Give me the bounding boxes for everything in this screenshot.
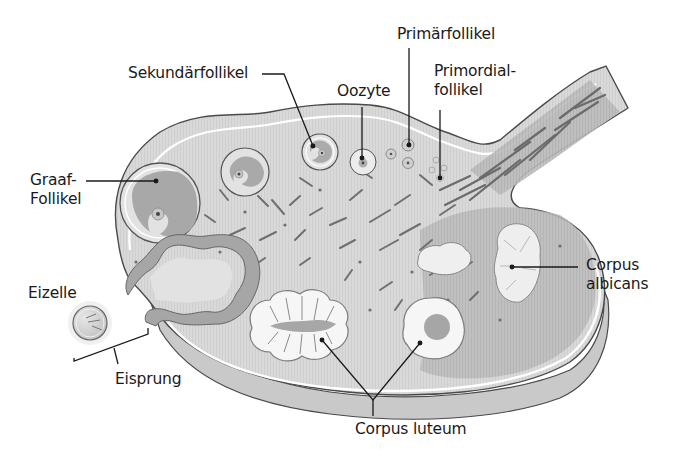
label-primaerfollikel: Primärfollikel: [397, 25, 495, 44]
ovary-diagram: Sekundärfollikel Primärfollikel Oozyte P…: [0, 0, 676, 462]
ovary-illustration: [0, 0, 676, 462]
label-graaf-follikel: Graaf- Follikel: [30, 171, 81, 209]
label-graaf-line1: Graaf-: [30, 171, 81, 190]
label-corpus-albicans: Corpus albicans: [586, 256, 648, 294]
label-corpus-albicans-line2: albicans: [586, 275, 648, 294]
corpus-luteum-round: [403, 298, 465, 359]
corpus-luteum-large: [250, 290, 348, 361]
secondary-follicle-large: [221, 148, 269, 196]
secondary-follicle: [302, 134, 338, 170]
label-primordialfollikel-line2: follikel: [434, 81, 516, 100]
graaf-follicle: [120, 163, 200, 243]
label-corpus-luteum: Corpus luteum: [355, 420, 466, 439]
label-corpus-albicans-line1: Corpus: [586, 256, 648, 275]
label-primordialfollikel-line1: Primordial-: [434, 62, 516, 81]
leader-eisprung: [114, 348, 118, 364]
label-graaf-line2: Follikel: [30, 190, 81, 209]
label-oozyte: Oozyte: [337, 82, 390, 101]
label-sekundaerfollikel: Sekundärfollikel: [128, 64, 248, 83]
egg-cell: [68, 301, 112, 345]
label-eisprung: Eisprung: [115, 370, 181, 389]
label-eizelle: Eizelle: [28, 284, 77, 303]
oocyte-follicle: [350, 149, 376, 175]
label-primordialfollikel: Primordial- follikel: [434, 62, 516, 100]
